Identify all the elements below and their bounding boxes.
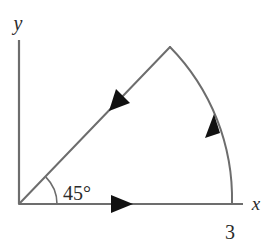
diagram-canvas: y x 45° 3 (0, 0, 275, 248)
x-axis-direction-arrow (111, 195, 133, 213)
circular-arc-path (170, 47, 232, 204)
sector-diagram: y x 45° 3 (0, 0, 275, 248)
radial-ray-line (19, 47, 170, 204)
arc-direction-arrow (205, 114, 220, 138)
radius-value-label: 3 (225, 221, 235, 243)
angle-arc-indicator (46, 177, 57, 204)
y-axis-label: y (12, 12, 23, 35)
angle-label: 45° (63, 182, 91, 204)
x-axis-label: x (251, 193, 261, 214)
